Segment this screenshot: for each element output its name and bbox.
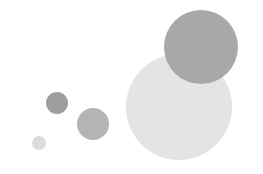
bubble-chart-plot-area	[0, 0, 263, 174]
bubble-point	[46, 92, 68, 114]
bubble-point	[77, 108, 109, 140]
bubble-point	[32, 136, 46, 150]
bubble-chart	[0, 0, 263, 174]
bubble-point	[164, 10, 238, 84]
